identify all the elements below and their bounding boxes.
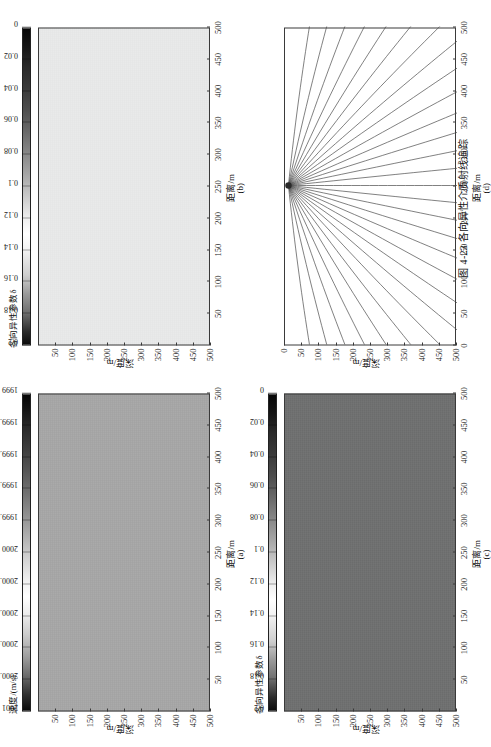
ray-path <box>288 185 397 344</box>
panel-d-ytick-label: 50 <box>297 348 306 367</box>
panel-b-ytick-label: 350 <box>154 348 163 367</box>
panel-b-colorbar-tickmark <box>22 58 31 59</box>
panel-d-ytick-label: 150 <box>331 348 340 367</box>
panel-d-xtick-mark <box>453 58 456 59</box>
panel-a-colorbar-tick: 1999 <box>2 384 18 393</box>
panel-c-xtick-mark <box>453 456 456 457</box>
panel-d-ytick-mark <box>336 342 337 345</box>
panel-d-ytick-label: 450 <box>435 348 444 367</box>
panel-c-colorbar-tick: 0.06 <box>250 479 264 488</box>
panel-c-tag: (c) <box>481 549 491 559</box>
panel-a-colorbar-tickmark <box>22 551 31 552</box>
panel-a-ytick-label: 100 <box>68 714 77 733</box>
panel-c-ytick-mark <box>456 708 457 711</box>
panel-b-xtick-mark <box>207 249 210 250</box>
panel-b-colorbar-tick: 0 <box>14 18 18 27</box>
panel-b-ytick-mark <box>55 342 56 345</box>
panel-a-colorbar-tick: 1999.2 <box>0 416 18 425</box>
panel-c-ytick-label: 300 <box>383 714 392 733</box>
panel-d: 0501001502002503003504004505000501001502… <box>268 27 474 345</box>
panel-a-colorbar-tick: 1999.4 <box>0 448 18 457</box>
panel-c-ytick-label: 100 <box>314 714 323 733</box>
panel-c-xtick-mark <box>453 646 456 647</box>
panel-b-colorbar-tickmark <box>22 153 31 154</box>
panel-b-colorbar-tickmark <box>22 90 31 91</box>
panel-b-xtick-label: 100 <box>214 275 223 288</box>
panel-b-xtick-label: 350 <box>214 116 223 129</box>
panel-d-ytick-label: 100 <box>314 348 323 367</box>
panel-a-colorbar-tick: 1999.6 <box>0 479 18 488</box>
panel-c-colorbar-tickmark <box>268 583 277 584</box>
panel-c-colorbar-tickmark <box>268 710 277 711</box>
panel-b-xtick-mark <box>207 26 210 27</box>
panel-a: 速度/(m/s) 20012000.82000.62000.42000.2200… <box>22 393 228 711</box>
panel-a-colorbar-tickmark <box>22 392 31 393</box>
panel-b-ytick-mark <box>176 342 177 345</box>
ray-path <box>288 166 457 185</box>
panel-d-ytick-mark <box>404 342 405 345</box>
panel-d-ytick-mark <box>301 342 302 345</box>
panel-c-ytick-label: 450 <box>435 714 444 733</box>
panel-b-colorbar-tickmark <box>22 249 31 250</box>
panel-b-xtick-label: 500 <box>214 21 223 34</box>
ray-path <box>288 185 457 204</box>
panel-a-colorbar-tick: 1999.8 <box>0 511 18 520</box>
panel-a-ytick-mark <box>141 708 142 711</box>
panel-c-colorbar-tick: 0 <box>260 384 264 393</box>
panel-a-xtick-mark <box>207 487 210 488</box>
panel-c-xtick-label: 150 <box>460 609 469 622</box>
panel-c-xtick-mark <box>453 583 456 584</box>
panel-d-xtick-label: 450 <box>460 52 469 65</box>
panel-b-ytick-mark <box>193 342 194 345</box>
panel-a-xtick-mark <box>207 583 210 584</box>
panel-c-colorbar-tick: 0.1 <box>254 543 264 552</box>
panel-c-colorbar-tick: 0.16 <box>250 638 264 647</box>
panel-a-colorbar-tickmark <box>22 487 31 488</box>
panel-b-colorbar-tick: 0.1 <box>8 177 18 186</box>
panel-c-ytick-label: 350 <box>400 714 409 733</box>
panel-a-colorbar-tick: 2000.2 <box>0 575 18 584</box>
panel-b-colorbar-tick: 0.06 <box>4 113 18 122</box>
ray-path <box>288 147 457 185</box>
panel-c: 各向异性参数δ 0.20.180.160.140.120.10.080.060.… <box>268 393 474 711</box>
panel-c-colorbar-tickmark <box>268 678 277 679</box>
panel-c-xtick-mark <box>453 487 456 488</box>
panel-b-colorbar-tickmark <box>22 280 31 281</box>
panel-b-xtick-mark <box>207 185 210 186</box>
panel-a-colorbar-tick: 2000.8 <box>0 670 18 679</box>
panel-b-colorbar-tick: 0.16 <box>4 272 18 281</box>
panel-a-ytick-label: 50 <box>51 714 60 733</box>
panel-a-xtick-mark <box>207 392 210 393</box>
panel-a-xtick-mark <box>207 551 210 552</box>
panel-c-ytick-mark <box>301 708 302 711</box>
panel-d-xtick-mark <box>453 26 456 27</box>
panel-d-ytick-mark <box>353 342 354 345</box>
panel-d-xtick-label: 400 <box>460 84 469 97</box>
panel-b-xtick-mark <box>207 217 210 218</box>
panel-a-xtick-label: 150 <box>214 609 223 622</box>
panel-b-colorbar-tick: 0.18 <box>4 304 18 313</box>
panel-a-ytick-mark <box>107 708 108 711</box>
panel-c-colorbar-tick: 0.12 <box>250 575 264 584</box>
panel-c-ytick-mark <box>336 708 337 711</box>
panel-c-ytick-label: 400 <box>417 714 426 733</box>
panel-b-xtick-label: 300 <box>214 148 223 161</box>
panel-a-xtick-label: 50 <box>214 675 223 684</box>
panel-a-xtick-label: 450 <box>214 418 223 431</box>
panel-a-xtick-label: 200 <box>214 577 223 590</box>
panel-b-colorbar-tick: 0.08 <box>4 145 18 154</box>
panel-a-colorbar-tick: 2000.4 <box>0 607 18 616</box>
panel-d-ytick-label: 0 <box>280 348 289 367</box>
panel-a-xtick-label: 300 <box>214 514 223 527</box>
panel-b-xtick-mark <box>207 153 210 154</box>
panel-c-colorbar-tickmark <box>268 615 277 616</box>
panel-c-texture <box>285 394 455 710</box>
ray-path <box>288 185 426 344</box>
ray-path <box>288 185 312 344</box>
panel-d-ytick-label: 350 <box>400 348 409 367</box>
panel-a-colorbar-tickmark <box>22 456 31 457</box>
panel-b-xtick-label: 400 <box>214 84 223 97</box>
panel-b-ytick-mark <box>72 342 73 345</box>
panel-c-xtick-label: 350 <box>460 482 469 495</box>
